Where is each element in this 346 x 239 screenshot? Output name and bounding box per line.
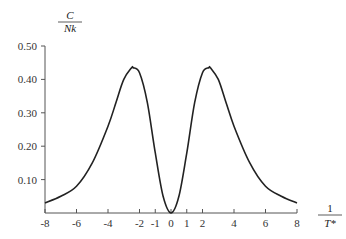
y-tick-label: 0.30 — [18, 107, 38, 119]
axes — [45, 46, 297, 213]
data-curve — [45, 67, 297, 213]
y-tick-label: 0.20 — [18, 140, 38, 152]
y-axis-title: C Nk — [58, 9, 82, 34]
x-tick-label: 1 — [184, 217, 190, 229]
x-tick-label: -1 — [151, 217, 160, 229]
chart: C Nk 1 T* 0.100.200.300.400.50 -8-6-4-2-… — [0, 0, 346, 239]
x-tick-label: 2 — [200, 217, 206, 229]
y-axis-ticks: 0.100.200.300.400.50 — [18, 40, 45, 186]
y-tick-label: 0.10 — [18, 174, 38, 186]
x-tick-label: -4 — [103, 217, 113, 229]
y-tick-label: 0.40 — [18, 73, 38, 85]
x-axis-title-numerator: 1 — [327, 202, 333, 214]
y-tick-label: 0.50 — [18, 40, 38, 52]
x-tick-label: 0 — [168, 217, 174, 229]
y-axis-title-numerator: C — [66, 9, 74, 21]
x-axis-title: 1 T* — [318, 202, 342, 229]
x-tick-label: -6 — [72, 217, 82, 229]
x-axis-title-denominator: T* — [324, 217, 336, 229]
y-axis-title-denominator: Nk — [63, 22, 77, 34]
x-tick-label: 4 — [231, 217, 237, 229]
x-tick-label: -8 — [40, 217, 50, 229]
x-tick-label: -2 — [135, 217, 144, 229]
x-tick-label: 6 — [263, 217, 269, 229]
x-tick-label: 8 — [294, 217, 300, 229]
